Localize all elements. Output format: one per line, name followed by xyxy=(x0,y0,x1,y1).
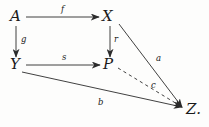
node-label-Y: Y xyxy=(10,57,20,72)
node-label-P: P xyxy=(103,57,113,72)
edge-label-g: g xyxy=(21,35,26,44)
edge-label-r: r xyxy=(114,35,118,44)
node-label-A: A xyxy=(10,9,21,24)
edge-a-arrow xyxy=(119,24,182,107)
edge-label-b: b xyxy=(98,98,103,107)
node-label-Z: Z. xyxy=(186,102,201,117)
edge-label-f: f xyxy=(61,5,64,14)
edge-label-c: c xyxy=(151,81,156,90)
edge-c-arrow xyxy=(118,68,182,107)
node-label-X: X xyxy=(102,9,113,24)
edge-label-s: s xyxy=(62,53,66,62)
edge-label-a: a xyxy=(156,54,161,63)
commutative-diagram: A X Y P Z. f g r s a c b xyxy=(0,0,209,127)
